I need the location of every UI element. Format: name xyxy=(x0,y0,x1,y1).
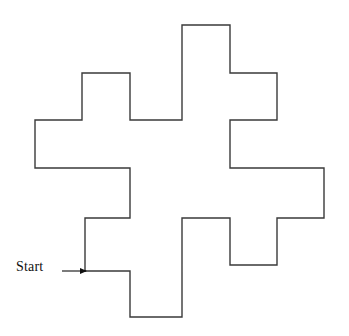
start-label: Start xyxy=(16,260,43,274)
figure-canvas: Start xyxy=(0,0,349,336)
lattice-path-figure xyxy=(0,0,349,336)
lattice-path-outline xyxy=(35,25,324,317)
